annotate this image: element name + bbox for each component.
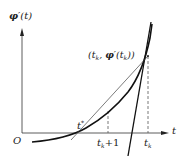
- paren-close: )): [127, 49, 134, 60]
- phi-symbol: φ: [105, 49, 114, 60]
- y-axis-arrow-icon: [20, 28, 24, 36]
- root-sup: *: [81, 119, 84, 126]
- point-tk: [147, 55, 149, 57]
- origin-label: O: [13, 136, 21, 146]
- tick-sub: k: [148, 142, 152, 149]
- y-axis-label: φ′(t): [9, 11, 32, 21]
- phi-symbol: φ: [9, 10, 18, 21]
- tick-label-tk-plus-1: tk+1: [97, 138, 119, 149]
- x-axis-label: t: [172, 126, 176, 136]
- root-label: t*: [77, 120, 84, 131]
- tick-suffix: +1: [105, 137, 120, 148]
- diagram-figure: [0, 0, 183, 165]
- tick-label-tk: tk: [144, 138, 152, 149]
- tangent-line-at-tk: [128, 22, 151, 156]
- point-label: (tk, φ′(tk)): [88, 50, 135, 61]
- diagram-canvas: φ′(t) t O (tk, φ′(tk)) t* tk+1 tk: [0, 0, 183, 165]
- x-axis-arrow-icon: [161, 131, 169, 135]
